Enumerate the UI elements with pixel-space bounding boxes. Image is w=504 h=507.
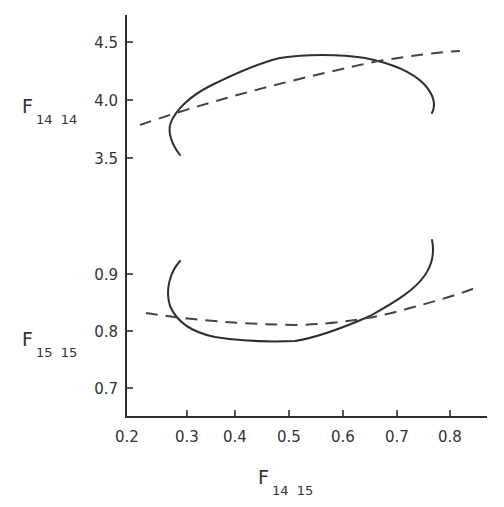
lower-y-ticks [126,274,133,388]
x-ticks [187,410,450,417]
chart-figure: 4.5 4.0 3.5 0.9 0.8 0.7 0.2 0.3 0.4 0.5 … [0,0,504,507]
lower-tick-label: 0.8 [94,323,118,341]
lower-solid-curve [168,240,433,341]
x-tick-label: 0.4 [223,428,247,446]
svg-text:F: F [22,328,33,350]
x-tick-label: 0.7 [385,428,409,446]
svg-text:14 15: 14 15 [272,483,313,498]
svg-text:F: F [258,466,269,488]
upper-dashed-curve [140,51,460,125]
svg-text:14 14: 14 14 [36,112,77,127]
upper-y-axis-label: F 14 14 [22,95,77,127]
lower-dashed-curve [146,288,475,325]
lower-y-axis-label: F 15 15 [22,328,77,360]
upper-tick-label: 3.5 [94,150,118,168]
lower-tick-label: 0.9 [94,266,118,284]
x-tick-label: 0.8 [438,428,462,446]
upper-tick-label: 4.5 [94,34,118,52]
upper-solid-curve [170,55,434,155]
x-tick-label: 0.3 [175,428,199,446]
x-tick-label: 0.5 [277,428,301,446]
upper-tick-label: 4.0 [94,92,118,110]
svg-text:15 15: 15 15 [36,345,77,360]
upper-y-ticks [126,42,133,158]
x-tick-label: 0.2 [115,428,139,446]
lower-tick-label: 0.7 [94,380,118,398]
x-axis-label: F 14 15 [258,466,313,498]
svg-text:F: F [22,95,33,117]
x-tick-label: 0.6 [331,428,355,446]
